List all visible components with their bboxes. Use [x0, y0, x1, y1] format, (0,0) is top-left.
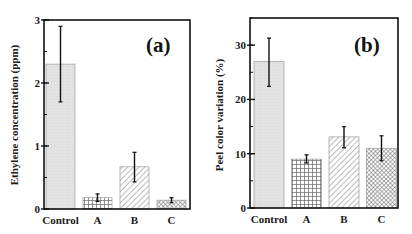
panel-b-label: (b) — [354, 33, 380, 57]
x-tick-label-b: B — [131, 214, 139, 226]
panel-b: 0102030 ControlABC Peel color variation … — [213, 18, 398, 225]
figure: 0123 ControlABC Ethylene concentration (… — [0, 0, 412, 234]
panel-a-label: (a) — [146, 33, 171, 57]
y-tick-label: 20 — [235, 93, 247, 105]
panel-b-y-axis-title: Peel color variation (%) — [213, 58, 226, 171]
y-tick-label: 0 — [35, 203, 41, 215]
panel-b-x-labels: ControlABC — [251, 213, 386, 225]
bar-a — [292, 159, 322, 208]
x-tick-label-c: C — [168, 214, 176, 226]
panel-a-x-labels: ControlABC — [42, 214, 175, 226]
panel-b-bars — [254, 61, 397, 208]
panel-a: 0123 ControlABC Ethylene concentration (… — [8, 14, 190, 226]
x-tick-label-control: Control — [251, 213, 287, 225]
x-tick-label-a: A — [94, 214, 102, 226]
y-tick-label: 30 — [235, 39, 247, 51]
x-tick-label-c: C — [378, 213, 386, 225]
x-tick-label-control: Control — [42, 214, 78, 226]
panel-a-bars — [46, 64, 186, 209]
y-tick-label: 0 — [241, 202, 247, 214]
y-tick-label: 10 — [235, 148, 247, 160]
x-tick-label-b: B — [340, 213, 348, 225]
y-tick-label: 1 — [35, 140, 41, 152]
panel-a-y-axis-title: Ethylene concentration (ppm) — [8, 44, 21, 185]
y-tick-label: 3 — [35, 14, 41, 26]
y-tick-label: 2 — [35, 77, 41, 89]
panel-b-y-ticks: 0102030 — [235, 18, 255, 214]
x-tick-label-a: A — [303, 213, 311, 225]
